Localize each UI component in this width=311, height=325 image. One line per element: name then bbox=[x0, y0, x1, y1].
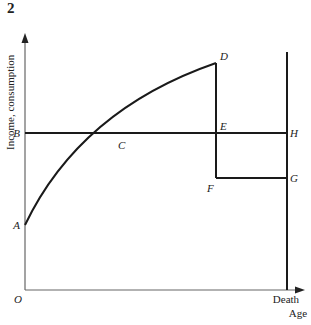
label-c: C bbox=[118, 139, 126, 151]
life-cycle-diagram: 2 Income, consumption A B C D E F G H O … bbox=[0, 0, 311, 325]
label-e: E bbox=[219, 120, 227, 132]
death-label: Death bbox=[273, 293, 300, 305]
x-axis-label: Age bbox=[289, 307, 307, 319]
label-a: A bbox=[12, 219, 20, 231]
y-axis-arrow-icon bbox=[22, 33, 29, 43]
label-d: D bbox=[219, 50, 228, 62]
label-origin: O bbox=[14, 293, 22, 305]
label-b: B bbox=[13, 127, 20, 139]
label-g: G bbox=[290, 172, 298, 184]
label-h: H bbox=[289, 127, 299, 139]
figure-number: 2 bbox=[7, 0, 15, 16]
label-f: F bbox=[206, 182, 214, 194]
